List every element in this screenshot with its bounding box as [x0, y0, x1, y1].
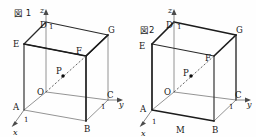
axis-label-z: z — [39, 6, 45, 15]
vertex-label-O: O — [37, 87, 44, 97]
axis-tick-y: 1 — [229, 103, 233, 111]
axis-label-y: y — [246, 100, 252, 109]
figure-caption: 図 1 — [14, 8, 31, 18]
vertex-label-E: E — [139, 41, 145, 51]
vertex-label-F: F — [205, 53, 211, 63]
vertex-label-M: M — [176, 125, 185, 135]
vertex-label-C: C — [107, 90, 114, 100]
vertex-label-C: C — [235, 90, 242, 100]
figure-2: 図2 D E G F P O A C B M z 1 y 1 x 1 — [128, 0, 256, 137]
axis-label-y: y — [118, 100, 124, 109]
vertex-label-E: E — [13, 39, 19, 49]
axis-tick-z: 1 — [49, 23, 53, 31]
vertex-label-G: G — [108, 25, 115, 35]
axis-tick-z: 1 — [177, 23, 181, 31]
vertex-label-A: A — [12, 102, 20, 112]
axis-label-z: z — [167, 6, 173, 15]
diagram-canvas: 図 1 D E G F P O A C B z 1 y 1 x 1 — [0, 0, 256, 137]
figure-1: 図 1 D E G F P O A C B z 1 y 1 x 1 — [0, 0, 128, 137]
vertex-label-P: P — [183, 68, 189, 78]
vertex-label-P: P — [56, 66, 62, 76]
vertex-label-D: D — [166, 20, 173, 30]
vertex-label-B: B — [84, 124, 90, 134]
vertex-label-B: B — [212, 125, 218, 135]
vertex-label-G: G — [236, 25, 243, 35]
vertex-label-F: F — [76, 46, 82, 56]
axis-tick-x: 1 — [24, 116, 28, 124]
vertex-label-O: O — [164, 87, 171, 97]
axis-tick-y: 1 — [101, 103, 105, 111]
vertex-label-D: D — [40, 20, 47, 30]
axis-label-x: x — [141, 129, 146, 137]
figure-caption: 図2 — [140, 25, 154, 35]
axis-tick-x: 1 — [152, 118, 156, 126]
axis-label-x: x — [13, 128, 18, 137]
vertex-label-A: A — [139, 104, 147, 114]
